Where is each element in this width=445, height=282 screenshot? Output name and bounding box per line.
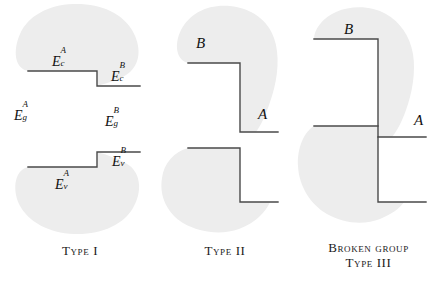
band-alignment-figure: EAc EBc EAg EBg EBv EAv B A B A Type I T… [0, 0, 445, 282]
label-conduction-band-b: EBc [111, 67, 127, 84]
type-1-blob [15, 4, 139, 234]
label-valence-band-a: EAv [55, 175, 71, 192]
label-band-gap-b: EBg [105, 112, 121, 129]
caption-type-2: Type II [150, 243, 300, 258]
label-band-gap-a: EAg [14, 106, 30, 123]
label-conduction-band-a: EAc [52, 52, 68, 69]
label-valence-band-b: EBv [112, 152, 128, 169]
caption-type-1: Type I [0, 243, 160, 258]
panel-type-2 [150, 0, 300, 240]
label-material-b-type-3: B [344, 22, 353, 37]
valence-band-a-step [378, 137, 426, 202]
label-material-b-type-2: B [196, 36, 205, 51]
label-material-a-type-2: A [258, 107, 267, 122]
caption-type-3: Broken group Type III [292, 240, 445, 270]
label-material-a-type-3: A [414, 113, 423, 128]
